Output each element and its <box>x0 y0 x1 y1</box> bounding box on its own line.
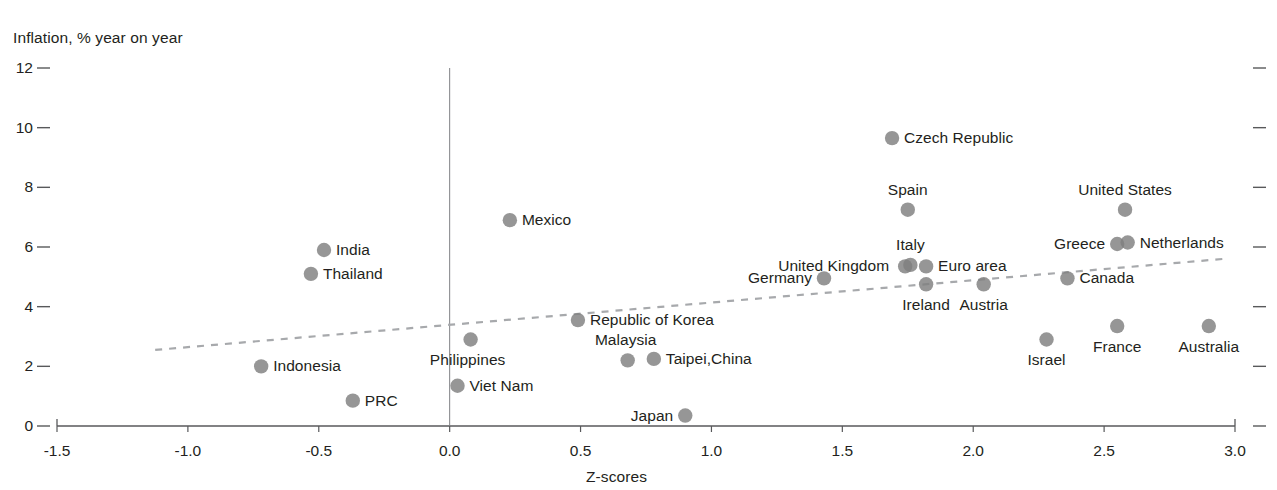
data-point-label: United Kingdom <box>778 257 889 275</box>
data-point-label: Canada <box>1079 269 1134 287</box>
y-axis-tick-label: 4 <box>0 298 33 316</box>
x-axis-tick-label: -0.5 <box>305 442 332 460</box>
x-axis-tick-label: -1.0 <box>175 442 202 460</box>
data-point-marker <box>901 203 915 217</box>
data-point-marker <box>254 359 268 373</box>
data-point-marker <box>919 259 933 273</box>
y-axis-tick-label: 6 <box>0 238 33 256</box>
data-point-marker <box>919 277 933 291</box>
data-point-marker <box>678 408 692 422</box>
data-point-marker <box>317 243 331 257</box>
data-point-marker <box>1060 271 1074 285</box>
data-point-marker <box>1118 203 1132 217</box>
data-markers <box>254 131 1216 423</box>
data-point-marker <box>346 393 360 407</box>
x-axis-tick-label: 0.5 <box>570 442 592 460</box>
x-axis-tick-label: 1.0 <box>701 442 723 460</box>
data-point-marker <box>463 332 477 346</box>
data-point-marker <box>1110 319 1124 333</box>
data-point-label: PRC <box>365 392 398 410</box>
data-point-marker <box>647 352 661 366</box>
data-point-marker <box>571 313 585 327</box>
data-point-label: Czech Republic <box>904 129 1013 147</box>
x-axis-tick-label: 1.5 <box>832 442 854 460</box>
data-point-label: United States <box>1078 181 1172 199</box>
data-point-label: Netherlands <box>1140 234 1224 252</box>
data-point-label: Greece <box>1054 235 1105 253</box>
data-point-label: Mexico <box>522 211 571 229</box>
x-axis-tick-label: 3.0 <box>1224 442 1246 460</box>
y-axis-tick-label: 2 <box>0 357 33 375</box>
data-point-label: India <box>336 241 370 259</box>
x-axis-tick-label: -1.5 <box>44 442 71 460</box>
data-point-marker <box>503 213 517 227</box>
data-point-label: Indonesia <box>273 357 341 375</box>
data-point-label: Israel <box>1027 351 1065 369</box>
data-point-marker <box>1039 332 1053 346</box>
data-point-label: Ireland <box>902 296 950 314</box>
y-axis-tick-label: 12 <box>0 59 33 77</box>
data-point-label: Republic of Korea <box>590 311 714 329</box>
data-point-label: Viet Nam <box>470 377 534 395</box>
data-point-marker <box>885 131 899 145</box>
data-point-marker <box>1120 235 1134 249</box>
data-point-marker <box>620 353 634 367</box>
data-point-label: Thailand <box>323 265 383 283</box>
data-point-label: Euro area <box>938 257 1007 275</box>
x-axis-tick-label: 2.0 <box>962 442 984 460</box>
data-point-label: Italy <box>896 236 925 254</box>
data-point-label: Malaysia <box>595 331 657 349</box>
scatter-chart: Inflation, % year on year Z-scores 02468… <box>0 0 1277 490</box>
x-axis-tick-label: 2.5 <box>1093 442 1115 460</box>
data-point-marker <box>304 267 318 281</box>
data-point-label: Philippines <box>430 351 506 369</box>
data-point-marker <box>903 258 917 272</box>
data-point-label: Taipei,China <box>666 350 752 368</box>
data-point-label: Austria <box>959 296 1008 314</box>
y-axis-tick-label: 8 <box>0 178 33 196</box>
data-point-label: Australia <box>1178 338 1239 356</box>
data-point-marker <box>976 277 990 291</box>
data-point-label: Japan <box>631 407 673 425</box>
y-axis-tick-label: 0 <box>0 417 33 435</box>
x-axis-title: Z-scores <box>586 468 647 486</box>
x-axis-tick-label: 0.0 <box>439 442 461 460</box>
y-axis-tick-label: 10 <box>0 119 33 137</box>
data-point-marker <box>450 379 464 393</box>
data-point-label: France <box>1093 338 1142 356</box>
data-point-marker <box>1202 319 1216 333</box>
data-point-label: Spain <box>888 181 928 199</box>
y-axis-title: Inflation, % year on year <box>13 29 183 47</box>
